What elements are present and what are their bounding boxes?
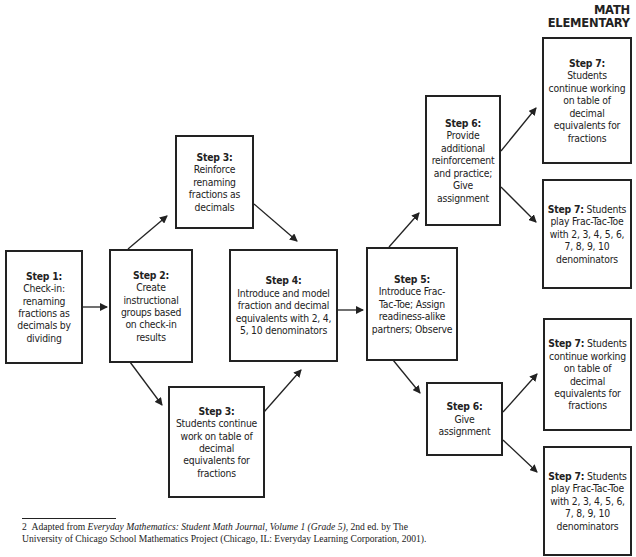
step7a-text: Students continue working on table of de… — [547, 69, 627, 143]
step7c-label: Step 7: — [548, 337, 584, 349]
footnote: 2 Adapted from Everyday Mathematics: Stu… — [22, 521, 442, 545]
step7d-content: Step 7: Students play Frac-Tac-Toe with … — [548, 470, 627, 532]
arrow-step5-step6b — [393, 360, 420, 393]
arrow-step6a-step7b — [501, 187, 536, 222]
arrow-step6b-step7c — [503, 374, 537, 412]
footnote-prefix: Adapted from — [32, 521, 88, 532]
step7d-box: Step 7: Students play Frac-Tac-Toe with … — [543, 446, 632, 556]
arrow-step3a-step4 — [254, 204, 297, 241]
step6b-label: Step 6: — [447, 400, 483, 412]
arrow-step6a-step7a — [501, 108, 536, 151]
step7d-label: Step 7: — [548, 470, 584, 482]
arrow-step3b-step4 — [264, 370, 301, 412]
step6b-text: Give assignment — [431, 413, 498, 438]
step5-label: Step 5: — [394, 273, 430, 285]
step7c-content: Step 7: Students continue working on tab… — [548, 337, 627, 411]
step1-label: Step 1: — [26, 270, 62, 282]
step4-box: Step 4: Introduce and model fraction and… — [229, 249, 338, 362]
step4-text: Introduce and model fraction and decimal… — [234, 287, 333, 337]
step7b-label: Step 7: — [548, 203, 584, 215]
step6a-text: Provide additional reinforcement and pra… — [430, 129, 496, 203]
footnote-number: 2 — [22, 521, 27, 532]
arrow-step2-step3b — [130, 362, 162, 405]
step6a-box: Step 6: Provide additional reinforcement… — [425, 95, 501, 226]
step3a-text: Reinforce renaming fractions as decimals — [180, 163, 249, 213]
step2-label: Step 2: — [133, 269, 169, 281]
step3b-text: Students continue work on table of decim… — [173, 417, 260, 479]
step7b-box: Step 7: Students play Frac-Tac-Toe with … — [542, 179, 632, 289]
footnote-title: Everyday Mathematics: Student Math Journ… — [88, 521, 346, 532]
step5-text: Introduce Frac-Tac-Toe; Assign readiness… — [371, 285, 453, 335]
step2-text: Create instructional groups based on che… — [114, 281, 188, 343]
step3a-label: Step 3: — [197, 151, 233, 163]
step7a-box: Step 7: Students continue working on tab… — [542, 37, 632, 164]
step6a-label: Step 6: — [445, 117, 481, 129]
step3a-box: Step 3: Reinforce renaming fractions as … — [175, 135, 254, 229]
step3b-label: Step 3: — [199, 405, 235, 417]
step5-box: Step 5: Introduce Frac-Tac-Toe; Assign r… — [366, 247, 458, 361]
step1-box: Step 1: Check-in: renaming fractions as … — [5, 250, 83, 364]
step6b-box: Step 6: Give assignment — [426, 382, 503, 456]
step1-text: Check-in: renaming fractions as decimals… — [10, 282, 78, 344]
step7a-label: Step 7: — [569, 57, 605, 69]
arrow-step6b-step7d — [503, 440, 537, 472]
arrow-step2-step3a — [128, 216, 167, 249]
footnote-divider — [22, 518, 116, 519]
step4-label: Step 4: — [266, 274, 302, 286]
step7c-box: Step 7: Students continue working on tab… — [543, 318, 632, 431]
step7b-content: Step 7: Students play Frac-Tac-Toe with … — [547, 203, 627, 265]
arrow-step5-step6a — [389, 213, 419, 247]
step2-box: Step 2: Create instructional groups base… — [109, 249, 193, 363]
step3b-box: Step 3: Students continue work on table … — [168, 386, 265, 498]
